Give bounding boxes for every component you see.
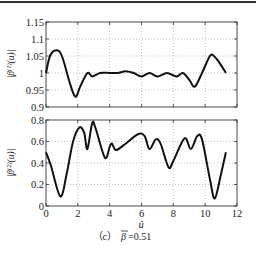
y-tick-label: 0.8 (31, 115, 44, 126)
caption-prefix: （c） (93, 231, 117, 242)
x-tick-label: 10 (200, 208, 211, 219)
beta2-curve (46, 121, 226, 198)
figure-caption: （c） β =0.51 (93, 231, 152, 242)
y-tick-label: 1.1 (31, 34, 44, 45)
y-tick-label: 0.9 (31, 102, 44, 113)
x-axis-label: û (138, 219, 143, 230)
x-tick-label: 2 (75, 208, 80, 219)
y-tick-label: 0.2 (31, 179, 44, 190)
y-tick-label: 0.95 (26, 85, 44, 96)
x-tick-label: 4 (107, 208, 113, 219)
beta1-curve (46, 50, 226, 97)
caption-value: =0.51 (128, 231, 151, 242)
y-tick-label: 1.15 (26, 17, 44, 28)
figure: 0.90.9511.051.11.15 00.20.40.60.80246810… (0, 0, 256, 255)
x-tick-label: 6 (139, 208, 144, 219)
y-tick-label: 0.6 (31, 136, 44, 147)
y-tick-label: 1 (39, 68, 44, 79)
plot-bottom: 00.20.40.60.8024681012 (31, 115, 242, 220)
x-tick-label: 12 (232, 208, 243, 219)
y-tick-label: 1.05 (26, 51, 44, 62)
y-axis-label-bottom: |β(2)(u)| (5, 149, 17, 178)
x-tick-label: 8 (171, 208, 176, 219)
y-axis-label-top: |β(1)(u)| (5, 50, 17, 79)
x-tick-label: 0 (43, 208, 48, 219)
y-tick-label: 0.4 (31, 158, 45, 169)
plot-top: 0.90.9511.051.11.15 (26, 17, 237, 113)
caption-symbol: β (120, 231, 126, 242)
